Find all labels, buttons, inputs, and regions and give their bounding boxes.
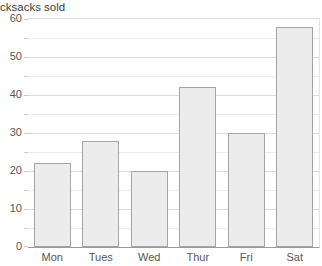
y-axis-tick — [24, 152, 28, 153]
y-axis-label: 30 — [0, 126, 22, 139]
bar-chart: cksacks sold 0102030405060MonTuesWedThur… — [0, 0, 322, 266]
y-axis-tick — [24, 228, 28, 229]
y-axis-label: 10 — [0, 202, 22, 215]
y-axis-label: 20 — [0, 164, 22, 177]
y-axis-tick — [24, 57, 28, 58]
y-axis-tick — [24, 76, 28, 77]
y-axis-tick — [24, 209, 28, 210]
bar-mon — [34, 163, 71, 247]
y-axis-tick — [24, 133, 28, 134]
bar-thur — [179, 87, 216, 247]
x-axis-label: Mon — [28, 251, 77, 264]
y-axis-tick — [24, 38, 28, 39]
y-axis-label: 50 — [0, 50, 22, 63]
x-axis-label: Sat — [271, 251, 320, 264]
y-axis-label: 0 — [0, 240, 22, 253]
y-axis-tick — [24, 114, 28, 115]
y-axis-tick — [24, 171, 28, 172]
y-axis-label: 60 — [0, 12, 22, 25]
bar-wed — [131, 171, 168, 247]
bar-tues — [82, 141, 119, 247]
y-axis-tick — [24, 95, 28, 96]
x-axis-label: Wed — [125, 251, 174, 264]
bar-sat — [276, 27, 313, 247]
bar-fri — [228, 133, 265, 247]
y-axis-tick — [24, 190, 28, 191]
x-axis-label: Thur — [174, 251, 223, 264]
x-axis-label: Tues — [77, 251, 126, 264]
y-axis-tick — [24, 246, 28, 247]
x-axis-label: Fri — [222, 251, 271, 264]
plot-area — [28, 18, 320, 248]
y-axis-label: 40 — [0, 88, 22, 101]
y-axis-tick — [24, 19, 28, 20]
